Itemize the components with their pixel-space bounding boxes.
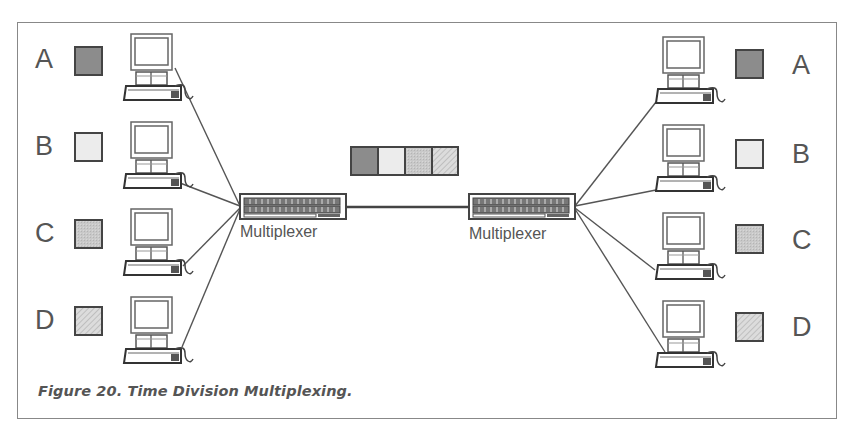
right-multiplexer-icon (469, 194, 575, 219)
right-computer-a-icon (656, 37, 725, 103)
right-multiplexer-label: Multiplexer (469, 226, 546, 242)
link-left-c (183, 208, 240, 266)
left-swatch-a (75, 47, 102, 75)
slot-c (405, 147, 432, 175)
left-label-c: C (35, 220, 55, 247)
left-swatch-c (75, 220, 102, 248)
left-computer-d-icon (124, 297, 193, 363)
link-left-d (182, 209, 240, 347)
right-swatch-a (736, 50, 763, 78)
link-right-a (575, 102, 656, 206)
slot-b (378, 147, 405, 175)
link-right-c (575, 208, 655, 270)
right-label-a: A (792, 52, 810, 79)
link-right-d (575, 209, 665, 352)
left-multiplexer-icon (240, 194, 346, 219)
right-computer-d-icon (656, 301, 725, 367)
slot-d (432, 147, 458, 175)
link-right-b (575, 190, 656, 206)
slot-a (351, 147, 378, 175)
tdm-diagram (0, 0, 856, 438)
left-label-b: B (35, 133, 53, 160)
left-computer-b-icon (124, 122, 193, 188)
left-computer-c-icon (124, 209, 193, 275)
right-swatch-d (736, 313, 763, 341)
right-links (575, 102, 665, 352)
left-multiplexer-label: Multiplexer (240, 224, 317, 240)
right-swatch-c (736, 225, 763, 253)
right-swatch-b (736, 140, 763, 168)
left-swatch-b (75, 133, 102, 161)
right-label-b: B (792, 141, 810, 168)
figure-caption: Figure 20. Time Division Multiplexing. (38, 383, 353, 399)
right-computer-b-icon (656, 125, 725, 191)
tdm-frame (351, 147, 458, 175)
left-label-d: D (35, 307, 55, 334)
left-label-a: A (35, 46, 53, 73)
left-links (175, 68, 240, 347)
left-computer-a-icon (124, 34, 193, 100)
right-label-c: C (792, 227, 812, 254)
left-swatch-d (75, 307, 102, 335)
right-computer-c-icon (656, 213, 725, 279)
right-label-d: D (792, 314, 812, 341)
